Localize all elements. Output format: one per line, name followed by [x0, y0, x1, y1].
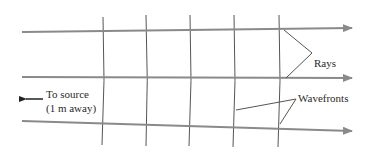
- wavefront-2: [146, 15, 147, 146]
- source-label-line2: (1 m away): [46, 102, 96, 115]
- wavefronts-leader: [236, 99, 296, 124]
- rays-leader: [284, 30, 312, 78]
- ray-bottom: [22, 121, 352, 131]
- rays-label: Rays: [314, 57, 336, 70]
- source-label-line1: To source: [46, 88, 89, 101]
- rays: [22, 28, 352, 131]
- wavefront-5: [278, 15, 280, 147]
- wave-diagram: [0, 0, 371, 153]
- wavefronts-label: Wavefronts: [298, 92, 348, 105]
- wavefront-1: [102, 17, 104, 145]
- ray-top: [22, 28, 352, 32]
- ray-middle: [22, 77, 352, 78]
